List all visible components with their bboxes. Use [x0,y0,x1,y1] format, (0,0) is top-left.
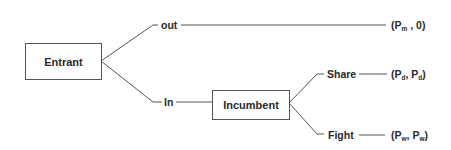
incumbent-node: Incumbent [212,90,290,120]
incumbent-label: Incumbent [223,99,279,111]
payoff-fight: (Pw, Pw) [391,129,428,145]
edge-out-diagonal [101,25,153,61]
edge-label-fight: Fight [327,129,355,141]
edge-share-diagonal [289,74,317,103]
edge-label-share: Share [326,68,357,80]
payoff-out: (Pm , 0) [391,19,425,35]
entrant-label: Entrant [44,56,83,68]
edge-label-in: In [163,96,174,108]
payoff-share: (Pd, Pd) [391,68,426,84]
edge-label-out: out [160,19,178,31]
entrant-node: Entrant [25,43,102,80]
edge-in-diagonal [101,61,153,102]
edge-fight-diagonal [289,103,317,134]
